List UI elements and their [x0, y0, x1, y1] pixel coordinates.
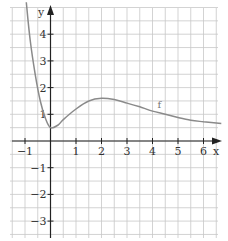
ticks: −11234564321−1−2−3: [17, 28, 207, 228]
function-graph: x y −11234564321−1−2−3 f: [0, 0, 228, 241]
x-tick-label: 1: [73, 145, 80, 158]
y-tick-label: −1: [30, 162, 46, 175]
x-tick-label: 6: [200, 145, 207, 158]
y-tick-label: 3: [40, 55, 47, 68]
y-tick-label: −3: [30, 215, 46, 228]
y-axis-label: y: [37, 6, 45, 19]
x-tick-label: 3: [124, 145, 131, 158]
y-tick-label: 4: [40, 28, 47, 41]
curve-label-f: f: [158, 99, 163, 110]
x-axis-label: x: [213, 145, 220, 158]
y-tick-label: −2: [30, 188, 46, 201]
grid: [10, 8, 218, 239]
x-axis-arrow-icon: [212, 138, 222, 145]
y-axis-arrow-icon: [47, 5, 54, 15]
x-tick-label: 5: [175, 145, 182, 158]
x-tick-label: 2: [98, 145, 105, 158]
x-tick-label: 4: [149, 145, 156, 158]
x-tick-label: −1: [17, 145, 33, 158]
y-tick-label: 2: [40, 82, 47, 95]
